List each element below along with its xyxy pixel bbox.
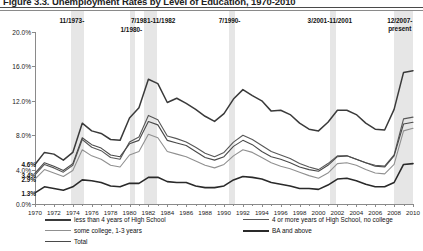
recession-annotation: 3/2001-11/2001 (308, 17, 352, 25)
series-start-label: 1.3% (21, 189, 36, 196)
plot-area (35, 32, 413, 204)
y-tick-label: 12.0% (12, 97, 31, 104)
y-tick-label: 8.0% (16, 132, 31, 139)
series-start-label: 2.9% (21, 176, 36, 183)
annotation-line: 7/1981-11/1982 (131, 17, 175, 25)
y-tick-label: 20.0% (12, 29, 31, 36)
recession-annotation: 12/2007-present (387, 17, 412, 32)
legend-swatch-icon (45, 241, 71, 242)
annotation-line: 3/2001-11/2001 (308, 17, 352, 25)
legend-swatch-icon (243, 219, 269, 220)
series-line (35, 128, 413, 179)
legend-swatch-icon (45, 219, 71, 221)
legend-swatch-icon (243, 230, 269, 232)
chart-legend: less than 4 years of High School4 or mor… (0, 214, 423, 251)
legend-label: BA and above (272, 227, 312, 234)
legend-label: Total (74, 238, 88, 245)
y-tick-label: 16.0% (12, 63, 31, 70)
legend-item[interactable]: Total (45, 238, 88, 245)
x-axis-line (35, 204, 413, 205)
page-title: Figure 3.3. Unemployment Rates by Level … (3, 0, 296, 7)
legend-item[interactable]: 4 or more years of High School, no colle… (243, 216, 393, 223)
figure-root: Figure 3.3. Unemployment Rates by Level … (0, 0, 423, 251)
legend-swatch-icon (45, 230, 71, 231)
recession-annotation: 7/1981-11/1982 (131, 17, 175, 25)
chart-container: 11/1973-1/1980-7/1981-11/19827/1990-3/20… (0, 11, 423, 211)
series-lines (35, 32, 413, 204)
legend-label: less than 4 years of High School (74, 216, 166, 223)
legend-item[interactable]: less than 4 years of High School (45, 216, 166, 223)
annotation-line: 7/1990- (219, 17, 241, 25)
annotation-line: present (387, 25, 412, 33)
x-tick-mark (413, 204, 414, 207)
annotation-line: 11/1973- (59, 17, 84, 25)
recession-annotation: 7/1990- (219, 17, 241, 25)
legend-label: some college, 1-3 years (74, 227, 142, 234)
annotation-line: 12/2007- (387, 17, 412, 25)
legend-item[interactable]: some college, 1-3 years (45, 227, 142, 234)
y-tick-label: 0.0% (16, 201, 31, 208)
series-line (35, 164, 413, 193)
series-start-label: 4.6% (21, 161, 36, 168)
series-line (35, 71, 413, 165)
recession-annotation: 11/1973- (59, 17, 84, 25)
legend-label: 4 or more years of High School, no colle… (272, 216, 393, 223)
legend-item[interactable]: BA and above (243, 227, 312, 234)
